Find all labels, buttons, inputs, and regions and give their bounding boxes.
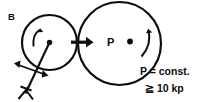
large-circle-center-dot — [127, 39, 133, 45]
annotation-line-2: ≧ 10 kp — [145, 82, 184, 94]
figure-drawing: B — [0, 0, 203, 102]
force-arrow-right-icon — [71, 37, 94, 48]
point-p-label: P — [107, 36, 114, 48]
rotation-arrow-cw-icon — [142, 29, 153, 57]
rotation-arrow-ccw-icon — [33, 28, 43, 46]
panel-letter-label: B — [8, 11, 15, 22]
annotation-line-1: P = const. — [140, 65, 190, 77]
figure-panel-b: B — [0, 0, 203, 102]
